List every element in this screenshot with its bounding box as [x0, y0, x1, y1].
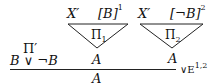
middle-conclusion: A — [92, 53, 101, 66]
left-formula: B ∨ ¬B — [10, 54, 58, 67]
assumption-b-text: [B] — [98, 6, 118, 21]
pi1-label: Π1 — [91, 29, 107, 44]
rule-label: ∨E1,2 — [180, 65, 207, 75]
final-conclusion: A — [92, 72, 101, 84]
context-x-prime-2: X′ — [138, 7, 150, 20]
pi1-subscript: 1 — [101, 35, 106, 44]
right-conclusion: A — [168, 52, 177, 65]
assumption-b-index: 1 — [118, 3, 123, 12]
assumption-not-b-text: [¬B] — [170, 6, 201, 21]
pi2-label: Π2 — [165, 29, 181, 44]
pi1-symbol: Π — [91, 28, 101, 42]
rule-indices: 1,2 — [195, 61, 208, 70]
assumption-not-b-index: 2 — [201, 3, 206, 12]
assumption-b: [B]1 — [98, 7, 123, 20]
pi2-symbol: Π — [165, 28, 175, 42]
inference-line — [10, 69, 176, 70]
context-x-prime-1: X′ — [67, 7, 79, 20]
pi2-subscript: 2 — [175, 35, 180, 44]
rule-name: ∨E — [180, 64, 195, 75]
assumption-not-b: [¬B]2 — [170, 7, 206, 20]
